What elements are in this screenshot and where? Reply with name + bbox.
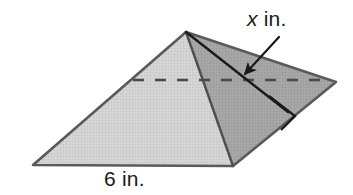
slant-height-variable: x	[247, 7, 258, 30]
pyramid-drawing	[0, 0, 353, 195]
texture-overlay	[33, 32, 336, 166]
base-edge-unit: in.	[122, 167, 145, 190]
label-base-edge: 6 in.	[104, 168, 145, 189]
base-edge-value: 6	[104, 167, 116, 190]
geometry-figure: x in. 6 in.	[0, 0, 353, 195]
slant-height-unit: in.	[264, 7, 287, 30]
label-slant-height: x in.	[247, 8, 287, 29]
